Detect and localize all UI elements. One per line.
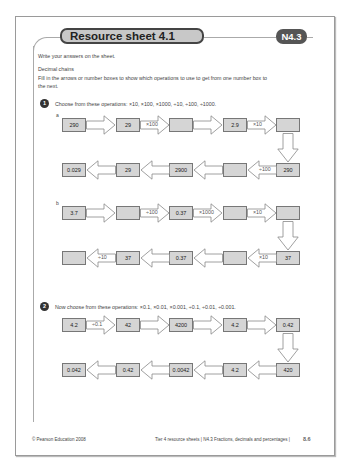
right-arrow-icon[interactable] [247, 315, 277, 335]
left-arrow-icon[interactable] [140, 360, 170, 380]
operation-label: ×100 [146, 121, 158, 127]
operation-label: ÷100 [146, 209, 158, 215]
left-arrow-icon[interactable] [140, 248, 170, 268]
part-b-label: b [56, 200, 59, 206]
left-arrow-icon[interactable] [193, 160, 223, 180]
number-box[interactable]: 0.37 [169, 206, 193, 220]
left-arrow-icon[interactable] [86, 360, 116, 380]
section-title: Decimal chains [38, 66, 74, 72]
frame-top-rule [204, 37, 276, 38]
number-box[interactable]: 0.029 [62, 163, 86, 177]
number-box[interactable]: 0.042 [62, 363, 86, 377]
operation-label: ×1000 [199, 209, 214, 215]
number-box[interactable]: 290 [276, 163, 300, 177]
number-box[interactable] [62, 251, 86, 265]
page-number: 8.6 [303, 436, 311, 442]
right-arrow-icon[interactable]: ×10 [247, 115, 277, 135]
number-box[interactable]: 290 [62, 118, 86, 132]
number-box[interactable]: 0.37 [169, 251, 193, 265]
number-box[interactable]: 0.42 [116, 363, 140, 377]
footer-source: Tier 4 resource sheets | N4.3 Fractions,… [155, 437, 290, 442]
frame-top-rule [307, 37, 313, 38]
left-arrow-icon[interactable]: ÷100 [247, 160, 277, 180]
right-arrow-icon[interactable]: ×10 [247, 203, 277, 223]
topic-code-badge: N4.3 [276, 29, 307, 44]
number-box[interactable] [276, 206, 300, 220]
right-arrow-icon[interactable] [193, 115, 223, 135]
right-arrow-icon[interactable]: ×100 [140, 115, 170, 135]
down-arrow-icon[interactable] [277, 333, 299, 363]
number-box[interactable]: 420 [276, 363, 300, 377]
number-box[interactable]: 2900 [169, 163, 193, 177]
question-2-badge: 2 [40, 302, 49, 311]
question-1-prompt: Choose from these operations: ×10, ×100,… [55, 101, 216, 107]
operation-label: ÷10 [98, 254, 107, 260]
number-box[interactable] [276, 118, 300, 132]
right-arrow-icon[interactable]: ÷0.1 [86, 315, 116, 335]
number-box[interactable]: 37 [276, 251, 300, 265]
question-1-badge: 1 [40, 99, 49, 108]
number-box[interactable]: 4.2 [223, 363, 247, 377]
number-box[interactable]: 4.2 [62, 318, 86, 332]
number-box[interactable]: 3.7 [62, 206, 86, 220]
instructions-line-2: the next. [38, 83, 58, 89]
operation-label: ×10 [253, 209, 262, 215]
page-title: Resource sheet 4.1 [60, 28, 204, 44]
right-arrow-icon[interactable]: ÷100 [140, 203, 170, 223]
number-box[interactable]: 0.0042 [169, 363, 193, 377]
number-box[interactable]: 4200 [169, 318, 193, 332]
number-box[interactable]: 2.9 [223, 118, 247, 132]
operation-label: ×10 [253, 121, 262, 127]
operation-label: ÷100 [259, 166, 271, 172]
number-box[interactable]: 29 [116, 118, 140, 132]
instructions-line-1: Fill in the arrows or number boxes to sh… [38, 75, 267, 81]
left-arrow-icon[interactable] [140, 160, 170, 180]
number-box[interactable]: 42 [116, 318, 140, 332]
number-box[interactable]: 4.2 [223, 318, 247, 332]
right-arrow-icon[interactable]: ×1000 [193, 203, 223, 223]
number-box[interactable] [223, 206, 247, 220]
operation-label: ÷0.1 [92, 321, 102, 327]
intro-text: Write your answers on the sheet. [38, 53, 115, 59]
right-arrow-icon[interactable] [193, 315, 223, 335]
operation-label: ×10 [259, 254, 268, 260]
left-arrow-icon[interactable]: ×10 [247, 248, 277, 268]
right-arrow-icon[interactable] [140, 315, 170, 335]
frame-top-rule [46, 37, 60, 38]
number-box[interactable] [223, 163, 247, 177]
copyright-text: © Pearson Education 2008 [32, 437, 86, 442]
number-box[interactable]: 0.42 [276, 318, 300, 332]
number-box[interactable]: 37 [116, 251, 140, 265]
down-arrow-icon[interactable] [277, 133, 299, 163]
number-box[interactable] [116, 206, 140, 220]
number-box[interactable] [223, 251, 247, 265]
left-arrow-icon[interactable] [193, 248, 223, 268]
part-a-label: a [56, 112, 59, 118]
left-arrow-icon[interactable]: ÷10 [86, 248, 116, 268]
question-2-prompt: Now choose from these operations: ×0.1, … [55, 304, 236, 310]
left-arrow-icon[interactable] [193, 360, 223, 380]
right-arrow-icon[interactable] [86, 115, 116, 135]
number-box[interactable] [169, 118, 193, 132]
left-arrow-icon[interactable] [86, 160, 116, 180]
down-arrow-icon[interactable] [277, 221, 299, 251]
left-arrow-icon[interactable] [247, 360, 277, 380]
frame-left-rule [33, 46, 34, 422]
number-box[interactable]: 29 [116, 163, 140, 177]
right-arrow-icon[interactable] [86, 203, 116, 223]
